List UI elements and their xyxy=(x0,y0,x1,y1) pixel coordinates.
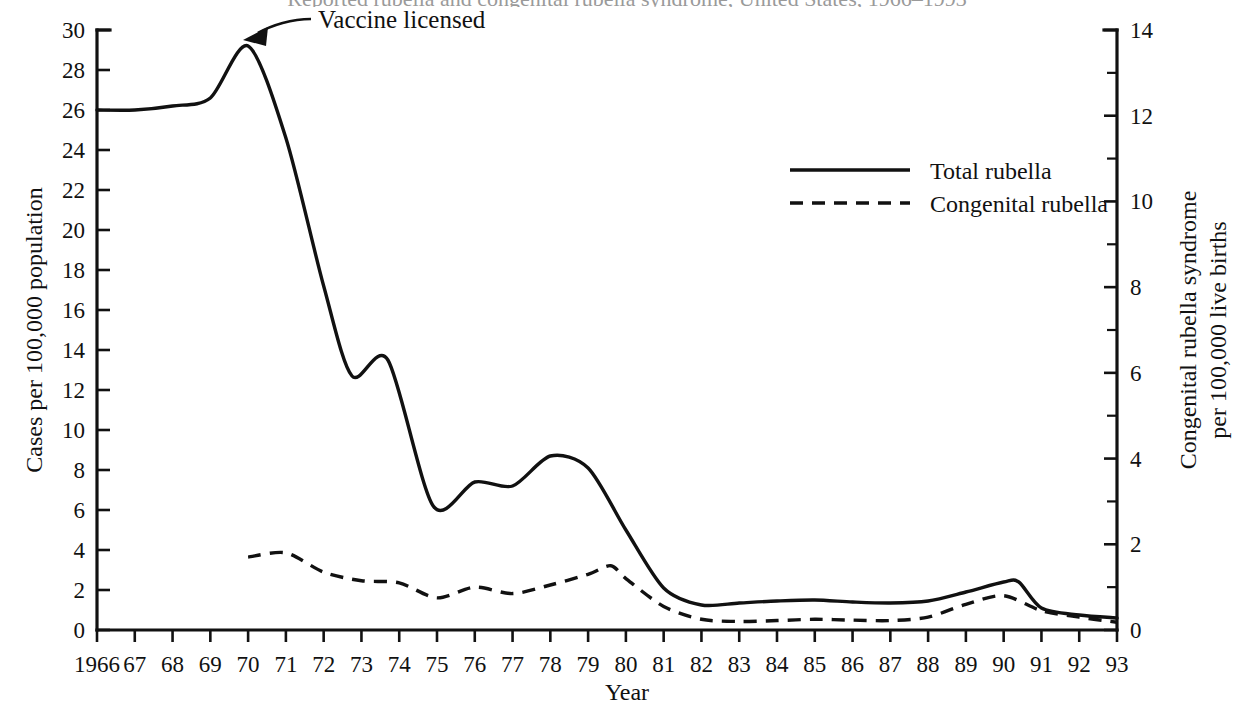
left-axis-tick-label: 14 xyxy=(62,338,86,363)
x-axis-tick-label: 70 xyxy=(237,652,260,677)
left-axis-tick-label: 20 xyxy=(62,218,85,243)
x-axis-tick-label: 80 xyxy=(614,652,637,677)
x-axis-title: Year xyxy=(605,679,649,705)
bottom-axis-tick-labels: 1966676869707172737475767778798081828384… xyxy=(74,652,1129,677)
left-axis-tick-label: 10 xyxy=(62,418,85,443)
x-axis-tick-label: 92 xyxy=(1068,652,1091,677)
left-axis-tick-label: 6 xyxy=(74,498,86,523)
right-axis-tick-label: 12 xyxy=(1130,104,1153,129)
series-total-rubella xyxy=(97,46,1117,618)
left-axis-tick-label: 24 xyxy=(62,138,86,163)
right-axis-tick-label: 2 xyxy=(1130,532,1142,557)
left-axis-tick-labels: 024681012141618202224262830 xyxy=(62,18,86,643)
x-axis-tick-label: 68 xyxy=(161,652,184,677)
right-axis-tick-label: 6 xyxy=(1130,361,1142,386)
rubella-chart-figure: Reported rubella and congenital rubella … xyxy=(0,0,1254,712)
right-axis-tick-label: 0 xyxy=(1130,618,1142,643)
left-axis-tick-label: 0 xyxy=(74,618,86,643)
x-axis-tick-label: 84 xyxy=(766,652,790,677)
x-axis-tick-label: 72 xyxy=(312,652,335,677)
chart-canvas: Reported rubella and congenital rubella … xyxy=(0,0,1254,712)
x-axis-tick-label: 88 xyxy=(917,652,940,677)
x-axis-tick-label: 1966 xyxy=(74,652,120,677)
left-axis-title: Cases per 100,000 population xyxy=(21,187,47,472)
left-axis xyxy=(97,30,110,630)
x-axis-tick-label: 76 xyxy=(463,652,486,677)
left-axis-tick-label: 16 xyxy=(62,298,85,323)
left-axis-tick-label: 8 xyxy=(74,458,86,483)
right-axis-tick-label: 4 xyxy=(1130,447,1142,472)
left-axis-tick-label: 4 xyxy=(74,538,86,563)
x-axis-tick-label: 86 xyxy=(841,652,864,677)
right-axis-tick-labels: 02468101214 xyxy=(1130,18,1154,643)
x-axis-tick-label: 81 xyxy=(652,652,675,677)
right-axis-tick-label: 14 xyxy=(1130,18,1154,43)
legend-label-congenital-rubella: Congenital rubella xyxy=(930,191,1108,217)
left-axis-tick-label: 28 xyxy=(62,58,85,83)
x-axis-tick-label: 71 xyxy=(274,652,297,677)
x-axis-tick-label: 78 xyxy=(539,652,562,677)
x-axis-tick-label: 82 xyxy=(690,652,713,677)
left-axis-tick-label: 26 xyxy=(62,98,85,123)
x-axis-tick-label: 75 xyxy=(426,652,449,677)
annotation-arrowhead-icon xyxy=(243,27,268,46)
x-axis-tick-label: 77 xyxy=(501,652,524,677)
right-axis-tick-label: 8 xyxy=(1130,275,1142,300)
left-axis-tick-label: 22 xyxy=(62,178,85,203)
bottom-axis-ticks xyxy=(97,630,1117,642)
x-axis-tick-label: 79 xyxy=(577,652,600,677)
x-axis-tick-label: 67 xyxy=(123,652,146,677)
x-axis-tick-label: 87 xyxy=(879,652,902,677)
x-axis-tick-label: 91 xyxy=(1030,652,1053,677)
annotation-label: Vaccine licensed xyxy=(318,6,486,33)
x-axis-tick-label: 90 xyxy=(992,652,1015,677)
x-axis-tick-label: 73 xyxy=(350,652,373,677)
legend-label-total-rubella: Total rubella xyxy=(930,158,1052,184)
legend: Total rubella Congenital rubella xyxy=(790,158,1108,217)
right-axis-tick-label: 10 xyxy=(1130,189,1153,214)
annotation-vaccine-licensed: Vaccine licensed xyxy=(243,6,486,46)
x-axis-tick-label: 93 xyxy=(1106,652,1129,677)
right-axis-title-line1: Congenital rubella syndrome xyxy=(1175,191,1201,470)
x-axis-tick-label: 69 xyxy=(199,652,222,677)
left-axis-tick-label: 30 xyxy=(62,18,85,43)
left-axis-ticks xyxy=(97,30,110,630)
x-axis-tick-label: 85 xyxy=(803,652,826,677)
x-axis-tick-label: 83 xyxy=(728,652,751,677)
right-axis-title-line2: per 100,000 live births xyxy=(1205,221,1231,438)
left-axis-tick-label: 2 xyxy=(74,578,86,603)
x-axis-tick-label: 74 xyxy=(388,652,412,677)
left-axis-tick-label: 18 xyxy=(62,258,85,283)
left-axis-tick-label: 12 xyxy=(62,378,85,403)
x-axis-tick-label: 89 xyxy=(954,652,977,677)
